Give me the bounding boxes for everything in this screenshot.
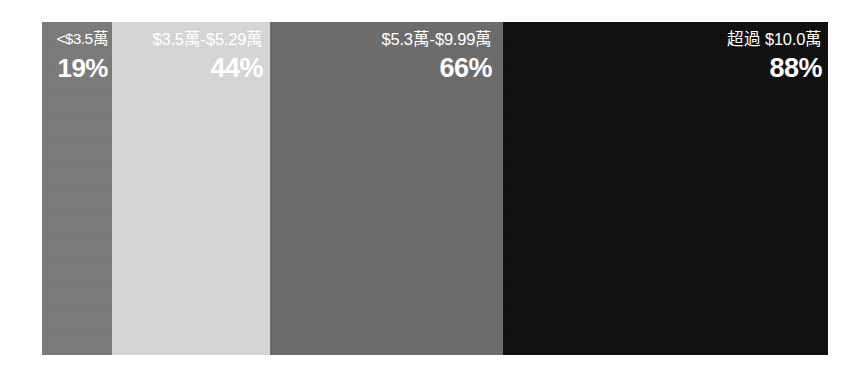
band-segment-2[interactable]: $5.3萬-$9.99萬 66% xyxy=(270,22,503,355)
segment-label: $3.5萬-$5.29萬 xyxy=(153,29,264,49)
figure-canvas: <$3.5萬 19% $3.5萬-$5.29萬 44% $5.3萬-$9.99萬… xyxy=(0,0,860,379)
band-segment-3[interactable]: 超過 $10.0萬 88% xyxy=(503,22,828,355)
segment-value: 88% xyxy=(769,52,822,84)
segment-value: 66% xyxy=(439,52,492,84)
segment-value: 19% xyxy=(57,52,108,84)
segment-label: <$3.5萬 xyxy=(56,29,108,49)
band-segment-0[interactable]: <$3.5萬 19% xyxy=(42,22,112,355)
segment-label: 超過 $10.0萬 xyxy=(727,29,822,49)
segmented-band: <$3.5萬 19% $3.5萬-$5.29萬 44% $5.3萬-$9.99萬… xyxy=(42,22,828,355)
band-segment-1[interactable]: $3.5萬-$5.29萬 44% xyxy=(112,22,270,355)
segment-label: $5.3萬-$9.99萬 xyxy=(382,29,493,49)
segment-value: 44% xyxy=(210,52,263,84)
